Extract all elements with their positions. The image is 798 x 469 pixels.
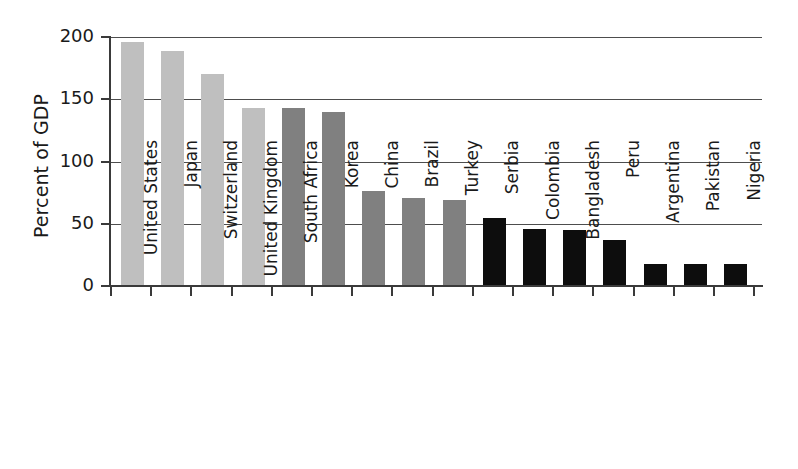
- x-axis-category-label: Japan: [181, 140, 201, 300]
- x-axis-category-label: Bangladesh: [583, 140, 603, 300]
- x-axis-category-label: Switzerland: [221, 140, 241, 300]
- y-axis-tick-label: 100: [30, 150, 94, 171]
- x-axis-category-label: Korea: [342, 140, 362, 300]
- x-axis-category-label: Serbia: [502, 140, 522, 300]
- x-axis-category-label: China: [382, 140, 402, 300]
- x-axis-category-label: South Africa: [301, 140, 321, 300]
- y-axis-line: [109, 36, 111, 287]
- x-axis-category-label: Turkey: [462, 140, 482, 300]
- bar-chart: Percent of GDP 050100150200 United State…: [0, 0, 798, 469]
- y-axis-tick-label: 200: [30, 25, 94, 46]
- x-axis-category-label: Peru: [623, 140, 643, 300]
- x-axis-category-label: Colombia: [543, 140, 563, 300]
- y-axis-tick-label: 150: [30, 87, 94, 108]
- y-axis-tick-label: 50: [30, 212, 94, 233]
- x-axis-category-label: Pakistan: [703, 140, 723, 300]
- x-axis-category-label: Nigeria: [744, 140, 764, 300]
- x-axis-category-label: Argentina: [663, 140, 683, 300]
- x-axis-category-label: United States: [141, 140, 161, 300]
- gridline: [110, 37, 762, 38]
- x-axis-tick-mark: [110, 287, 112, 296]
- x-axis-category-label: Brazil: [422, 140, 442, 300]
- y-axis-tick-label: 0: [30, 274, 94, 295]
- x-axis-category-label: United Kingdom: [261, 140, 281, 300]
